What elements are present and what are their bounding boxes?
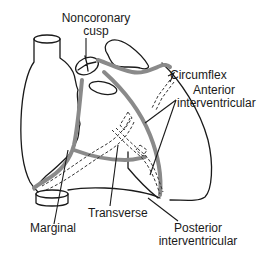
- label-marginal: Marginal: [30, 222, 76, 235]
- aortic-valve: [73, 54, 102, 79]
- label-anterior-line2: interventricular: [177, 97, 256, 110]
- right-atrium-svc: [21, 35, 80, 192]
- inferior-border: [68, 188, 160, 198]
- label-noncoronary-cusp: Noncoronary cusp: [55, 12, 137, 38]
- label-posterior-interventricular: Posterior interventricular: [148, 222, 248, 248]
- label-noncoronary-line2: cusp: [55, 25, 137, 38]
- leader-transverse: [110, 145, 118, 206]
- label-circumflex: Circumflex: [170, 69, 227, 82]
- leader-marginal: [54, 150, 68, 224]
- label-anterior-interventricular: Anterior interventricular: [177, 84, 256, 110]
- label-transverse: Transverse: [88, 207, 148, 220]
- posterior-dashed-vessels: [42, 80, 174, 194]
- leader-anterior-b: [150, 100, 176, 175]
- leader-anterior-a: [145, 100, 176, 123]
- leader-posterior: [148, 198, 178, 221]
- inferior-vena-cava: [36, 190, 68, 206]
- label-posterior-line2: interventricular: [148, 235, 248, 248]
